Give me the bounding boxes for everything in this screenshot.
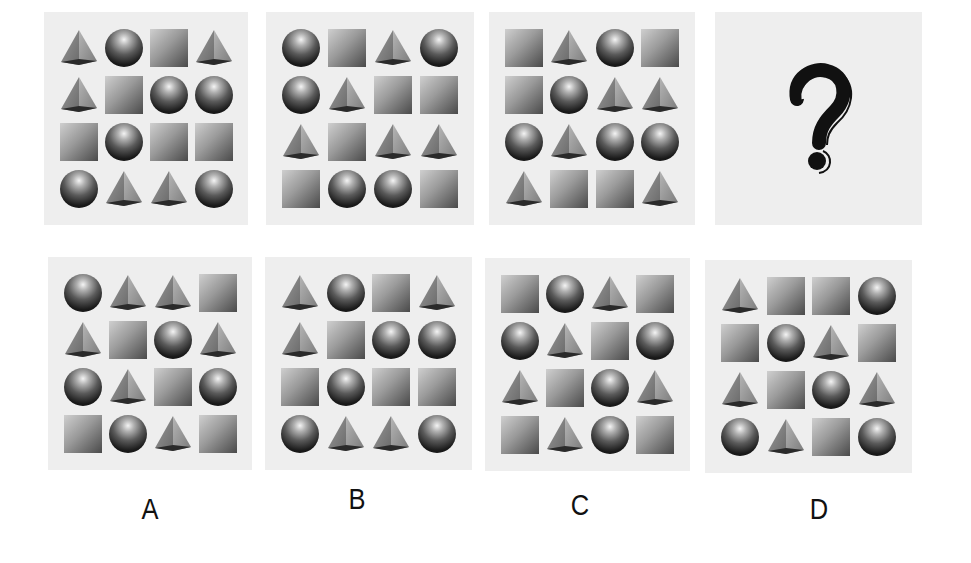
pyramid-icon xyxy=(635,368,675,408)
pyramid-icon xyxy=(545,415,585,455)
grid-cell xyxy=(809,367,855,414)
sphere-icon xyxy=(372,321,410,359)
grid-cell xyxy=(416,119,462,166)
cube-icon xyxy=(591,322,629,360)
sphere-icon xyxy=(195,170,233,208)
grid-cell xyxy=(588,365,633,412)
grid-cell xyxy=(101,71,146,118)
grid-cell xyxy=(633,317,678,364)
sphere-icon xyxy=(199,368,237,406)
pyramid-icon xyxy=(545,321,585,361)
grid-cell xyxy=(633,365,678,412)
option-c-label[interactable]: C xyxy=(571,488,589,522)
sphere-icon xyxy=(418,321,456,359)
grid-cell xyxy=(60,316,105,363)
grid-cell xyxy=(763,272,809,319)
cube-icon xyxy=(195,123,233,161)
pyramid-icon xyxy=(280,320,320,360)
pyramid-icon xyxy=(549,122,589,162)
pyramid-icon xyxy=(640,169,680,209)
pyramid-icon xyxy=(500,368,540,408)
cube-icon xyxy=(372,368,410,406)
sphere-icon xyxy=(420,29,458,67)
question-panel-3 xyxy=(489,12,695,225)
grid-cell xyxy=(146,71,191,118)
cube-icon xyxy=(374,76,412,114)
sphere-icon xyxy=(591,416,629,454)
cube-icon xyxy=(281,368,319,406)
cube-icon xyxy=(372,274,410,312)
option-d-label[interactable]: D xyxy=(810,492,828,526)
cube-icon xyxy=(328,123,366,161)
pyramid-icon xyxy=(419,122,459,162)
cube-icon xyxy=(721,324,759,362)
option-b-label[interactable]: B xyxy=(349,482,366,516)
grid-cell xyxy=(638,24,684,71)
grid-cell xyxy=(414,316,460,363)
sphere-icon xyxy=(596,29,634,67)
grid-cell xyxy=(324,71,370,118)
sphere-icon xyxy=(550,76,588,114)
grid-cell xyxy=(638,166,684,213)
grid-cell xyxy=(101,24,146,71)
option-c-panel[interactable] xyxy=(485,258,690,471)
pyramid-icon xyxy=(373,28,413,68)
grid-cell xyxy=(547,119,593,166)
grid-cell xyxy=(105,269,150,316)
cube-icon xyxy=(282,170,320,208)
pyramid-icon xyxy=(595,75,635,115)
grid-cell xyxy=(105,316,150,363)
grid-cell xyxy=(324,24,370,71)
grid-cell xyxy=(60,364,105,411)
cube-icon xyxy=(327,321,365,359)
option-a-label[interactable]: A xyxy=(142,492,159,526)
grid-cell xyxy=(497,317,542,364)
pyramid-icon xyxy=(504,169,544,209)
grid-cell xyxy=(105,364,150,411)
grid-cell xyxy=(191,24,236,71)
grid-cell xyxy=(414,269,460,316)
option-b-panel[interactable] xyxy=(265,257,472,470)
grid-cell xyxy=(501,24,547,71)
cube-icon xyxy=(812,277,850,315)
sphere-icon xyxy=(282,29,320,67)
grid-cell xyxy=(717,272,763,319)
cube-icon xyxy=(858,324,896,362)
grid-cell xyxy=(195,364,240,411)
pyramid-icon xyxy=(766,417,806,457)
grid-cell xyxy=(809,414,855,461)
pyramid-icon xyxy=(811,323,851,363)
sphere-icon xyxy=(858,418,896,456)
grid-cell xyxy=(195,269,240,316)
pyramid-icon xyxy=(326,414,366,454)
cube-icon xyxy=(109,321,147,359)
grid-cell xyxy=(809,319,855,366)
grid-cell xyxy=(497,412,542,459)
option-d-panel[interactable] xyxy=(705,260,912,473)
pyramid-icon xyxy=(280,273,320,313)
option-a-panel[interactable] xyxy=(48,257,252,470)
sphere-icon xyxy=(641,123,679,161)
cube-icon xyxy=(767,371,805,409)
grid-cell xyxy=(416,166,462,213)
question-panel-2 xyxy=(266,12,474,225)
sphere-icon xyxy=(858,277,896,315)
cube-icon xyxy=(328,29,366,67)
grid-cell xyxy=(633,412,678,459)
question-panel-1 xyxy=(44,12,248,225)
sphere-icon xyxy=(105,123,143,161)
grid-cell xyxy=(542,317,587,364)
grid-cell xyxy=(323,411,369,458)
pyramid-icon xyxy=(720,370,760,410)
grid-cell xyxy=(763,367,809,414)
sphere-icon xyxy=(767,324,805,362)
sphere-icon xyxy=(596,123,634,161)
sphere-icon xyxy=(154,321,192,359)
grid-cell xyxy=(195,411,240,458)
sphere-icon xyxy=(150,76,188,114)
grid-cell xyxy=(809,272,855,319)
grid-cell xyxy=(592,166,638,213)
grid-cell xyxy=(854,319,900,366)
pyramid-icon xyxy=(857,370,897,410)
cube-icon xyxy=(154,368,192,406)
